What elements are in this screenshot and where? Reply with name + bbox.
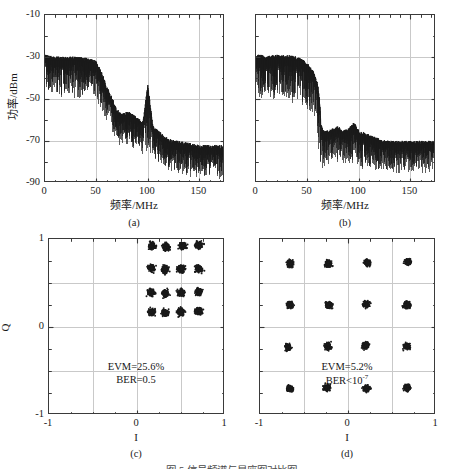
panel-b-ticklabel-x-3: 150 [401,186,417,197]
panel-d-constellation-points [260,239,435,414]
panel-c-ticklabel-x-1: 0 [133,418,138,429]
panel-c-constellation-points [49,239,224,414]
panel-a-ticklabel-y-0: -10 [8,9,40,20]
panel-b-ticklabel-x-0: 0 [252,186,257,197]
panel-c-ticklabel-y-1: 0 [12,321,44,332]
panel-b-spectrum-trace [256,15,435,182]
panel-a-ticklabel-x-0: 0 [41,186,46,197]
panel-d-evm-annotation: EVM=5.2% BER<10-7 [321,360,372,387]
panel-c-ticklabel-x-0: -1 [44,418,53,429]
panel-a-label: (a) [128,217,140,228]
panel-a-ticklabel-y-3: -70 [8,135,40,146]
panel-c-ber-value: BER=0.5 [108,373,164,386]
panel-b-plot-frame [255,14,435,182]
panel-a-ticklabel-y-1: -30 [8,51,40,62]
panel-b-ticklabel-x-2: 100 [350,186,366,197]
panel-a-ticklabel-x-1: 50 [90,186,101,197]
figure-container: -10 -30 -50 -70 -90 0 50 100 150 功率/dBm … [0,0,463,469]
panel-b-ticklabel-x-1: 50 [301,186,312,197]
panel-a-ticklabel-x-3: 150 [190,186,206,197]
panel-c-label: (c) [130,448,142,459]
panel-c-plot-frame [48,238,224,414]
panel-c-evm-annotation: EVM=25.6% BER=0.5 [108,360,164,386]
panel-a: -10 -30 -50 -70 -90 0 50 100 150 功率/dBm … [0,0,232,235]
panel-c-ticklabel-y-2: -1 [12,409,44,420]
panel-d-ticklabel-x-1: 0 [344,418,349,429]
panel-c-ticklabel-y-0: 1 [12,233,44,244]
panel-c-x-axis-label: I [134,432,138,443]
panel-a-plot-frame [44,14,224,182]
panel-d-ber-prefix: BER<10 [326,375,363,386]
panel-d-ticklabel-x-0: -1 [255,418,264,429]
panel-a-y-axis-label: 功率/dBm [8,62,19,132]
panel-a-x-axis-label: 频率/MHz [110,200,158,211]
panel-d-ticklabel-x-2: 1 [432,418,437,429]
panel-d-plot-frame [259,238,435,414]
panel-d-ber-value: BER<10-7 [321,373,372,387]
panel-b-x-axis-label: 频率/MHz [321,200,369,211]
panel-d-evm-value: EVM=5.2% [321,360,372,373]
panel-a-ticklabel-x-2: 100 [139,186,155,197]
panel-b: 0 50 100 150 频率/MHz (b) [232,0,463,235]
panel-c: 1 0 -1 -1 0 1 Q I (c) EVM=25.6% BER=0.5 [0,232,232,469]
panel-a-ticklabel-y-4: -90 [8,177,40,188]
panel-c-y-axis-label: Q [0,308,11,348]
panel-c-evm-value: EVM=25.6% [108,360,164,373]
panel-d-label: (d) [341,448,353,459]
panel-d-ber-exponent: -7 [362,373,368,381]
panel-d-x-axis-label: I [345,432,349,443]
panel-a-spectrum-trace [45,15,224,182]
figure-caption: 图 5 信号频谱与星座图对比图 [0,462,463,469]
panel-b-label: (b) [339,217,351,228]
panel-c-ticklabel-x-2: 1 [221,418,226,429]
panel-d: -1 0 1 I (d) EVM=5.2% BER<10-7 [232,232,463,469]
